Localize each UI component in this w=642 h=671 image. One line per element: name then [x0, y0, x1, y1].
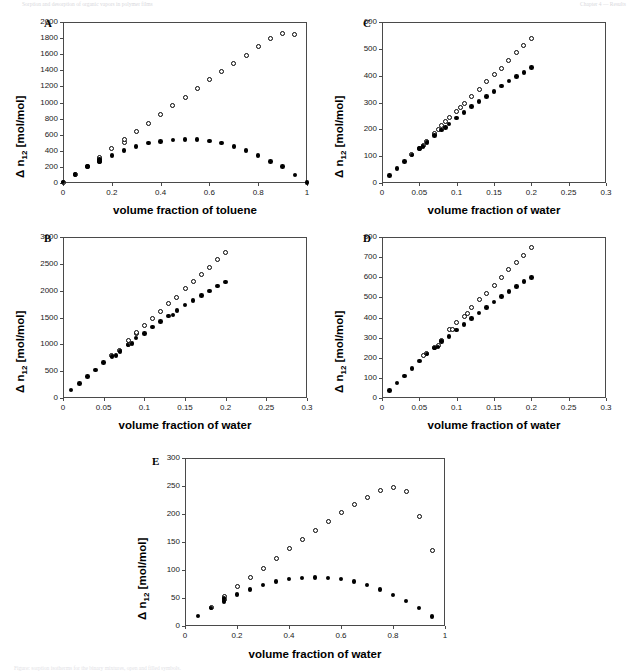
data-point-c-filled-circles: [462, 110, 467, 115]
data-point-b-open-circles: [109, 353, 114, 358]
x-tick-d-4: [531, 398, 532, 401]
data-point-c-open-circles: [424, 139, 429, 144]
y-tick-label-d-8: 800: [351, 232, 377, 241]
data-point-d-filled-circles: [469, 316, 474, 321]
x-tick-label-c-5: 0.25: [549, 188, 589, 197]
x-tick-label-e-0: 0: [165, 631, 205, 640]
data-point-c-filled-circles: [454, 116, 459, 121]
y-tick-label-e-3: 150: [154, 537, 180, 546]
data-point-b-filled-circles: [215, 284, 220, 289]
data-point-b-open-circles: [199, 272, 204, 277]
data-point-e-filled-circles: [222, 596, 227, 601]
panel-letter-b: B: [44, 233, 51, 244]
data-point-b-filled-circles: [150, 325, 155, 330]
y-tick-d-0: [379, 398, 382, 399]
data-point-d-filled-circles: [436, 345, 441, 350]
data-point-d-filled-circles: [447, 334, 452, 339]
x-tick-label-d-1: 0.05: [399, 403, 439, 412]
x-tick-label-b-0: 0: [43, 403, 83, 412]
y-tick-a-6: [60, 86, 63, 87]
y-tick-label-b-0: 0: [32, 393, 58, 402]
data-point-b-open-circles: [126, 342, 131, 347]
data-point-c-filled-circles: [477, 99, 482, 104]
y-tick-label-a-0: 0: [32, 178, 58, 187]
x-tick-a-1: [112, 183, 113, 186]
data-point-e-open-circles: [287, 546, 292, 551]
data-point-e-open-circles: [235, 584, 240, 589]
x-tick-label-b-1: 0.05: [84, 403, 124, 412]
data-point-e-open-circles: [209, 605, 214, 610]
data-point-e-open-circles: [313, 528, 318, 533]
x-tick-a-4: [258, 183, 259, 186]
data-point-e-filled-circles: [235, 592, 240, 597]
data-point-d-filled-circles: [529, 275, 534, 280]
data-point-a-open-circles: [85, 164, 90, 169]
y-tick-d-7: [379, 257, 382, 258]
data-point-e-filled-circles: [222, 599, 227, 604]
data-point-d-filled-circles: [484, 305, 489, 310]
data-point-c-filled-circles: [514, 74, 519, 79]
x-tick-label-a-5: 1: [287, 188, 327, 197]
x-tick-label-c-4: 0.2: [511, 188, 551, 197]
x-tick-b-6: [307, 398, 308, 401]
panel-letter-a: A: [44, 18, 52, 29]
data-point-e-open-circles: [391, 485, 396, 490]
data-point-e-filled-circles: [209, 606, 214, 611]
y-tick-a-0: [60, 183, 63, 184]
x-tick-label-b-4: 0.2: [206, 403, 246, 412]
data-point-d-filled-circles: [417, 359, 422, 364]
y-tick-label-d-1: 100: [351, 373, 377, 382]
y-tick-c-3: [379, 103, 382, 104]
y-axis-label-a: Δ n12 [mol/mol]: [14, 96, 29, 178]
data-point-a-open-circles: [183, 95, 188, 100]
data-point-b-open-circles: [117, 348, 122, 353]
data-point-a-filled-circles: [293, 173, 298, 178]
data-point-d-open-circles: [499, 275, 504, 280]
y-tick-label-a-1: 200: [32, 162, 58, 171]
y-tick-label-a-5: 1000: [32, 98, 58, 107]
data-point-d-filled-circles: [410, 366, 415, 371]
y-tick-c-1: [379, 156, 382, 157]
x-tick-d-0: [382, 398, 383, 401]
x-tick-label-d-3: 0.15: [474, 403, 514, 412]
y-tick-label-a-9: 1800: [32, 33, 58, 42]
data-point-d-open-circles: [529, 245, 534, 250]
x-tick-label-d-0: 0: [362, 403, 402, 412]
x-tick-label-c-6: 0.3: [586, 188, 626, 197]
data-point-c-filled-circles: [410, 153, 415, 158]
y-axis-label-c: Δ n12 [mol/mol]: [333, 96, 348, 178]
y-tick-label-a-8: 1600: [32, 49, 58, 58]
x-axis-label-a: volume fraction of toluene: [63, 204, 307, 216]
data-point-b-filled-circles: [101, 360, 106, 365]
data-point-e-filled-circles: [417, 606, 422, 611]
data-point-a-open-circles: [122, 137, 127, 142]
data-point-c-filled-circles: [425, 140, 430, 145]
data-point-e-open-circles: [222, 597, 227, 602]
x-tick-e-0: [185, 626, 186, 629]
x-tick-label-a-4: 0.8: [238, 188, 278, 197]
data-point-a-open-circles: [97, 155, 102, 160]
y-tick-d-3: [379, 338, 382, 339]
data-point-b-filled-circles: [126, 343, 131, 348]
y-tick-label-c-4: 400: [351, 71, 377, 80]
x-tick-e-3: [341, 626, 342, 629]
page-header: Sorption and desorption of organic vapor…: [0, 0, 642, 12]
data-point-e-filled-circles: [274, 579, 279, 584]
panel-c: C010020030040050060000.050.10.150.20.250…: [0, 0, 642, 671]
data-point-e-open-circles: [378, 488, 383, 493]
y-tick-label-d-2: 200: [351, 353, 377, 362]
data-point-d-filled-circles: [395, 381, 400, 386]
data-point-b-filled-circles: [93, 368, 98, 373]
data-point-c-open-circles: [469, 94, 474, 99]
data-point-c-open-circles: [409, 152, 414, 157]
y-tick-b-4: [60, 291, 63, 292]
data-point-a-filled-circles: [61, 180, 66, 185]
y-axis-label-d: Δ n12 [mol/mol]: [333, 311, 348, 393]
data-point-e-filled-circles: [326, 576, 331, 581]
x-tick-b-4: [226, 398, 227, 401]
x-tick-c-3: [494, 183, 495, 186]
data-point-d-filled-circles: [492, 300, 497, 305]
y-tick-a-1: [60, 167, 63, 168]
y-tick-label-a-2: 400: [32, 146, 58, 155]
data-point-c-filled-circles: [439, 128, 444, 133]
